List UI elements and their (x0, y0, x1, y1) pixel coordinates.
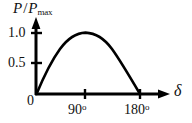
y-tick-label-1.0: 1.0 (8, 26, 26, 40)
y-axis-label-numerator: P (13, 0, 22, 16)
degree-symbol-180: o (145, 102, 150, 112)
origin-label: 0 (27, 94, 34, 108)
y-axis-label: P/Pmax (13, 1, 52, 17)
sine-curve (37, 33, 141, 94)
x-axis-arrowhead (158, 90, 170, 99)
y-axis-label-denominator: P (28, 0, 37, 16)
power-angle-figure: P/Pmax 1.0 0.5 0 90o 180o δ (0, 0, 192, 123)
y-axis-arrowhead (32, 17, 41, 29)
x-tick-label-90: 90o (68, 103, 87, 117)
x-tick-label-180-value: 180 (124, 102, 145, 117)
x-axis-label: δ (174, 83, 181, 99)
x-tick-label-90-value: 90 (68, 102, 82, 117)
y-tick-label-0.5: 0.5 (8, 56, 26, 70)
degree-symbol-90: o (82, 102, 87, 112)
y-axis-label-subscript: max (38, 7, 53, 17)
x-tick-label-180: 180o (124, 103, 150, 117)
